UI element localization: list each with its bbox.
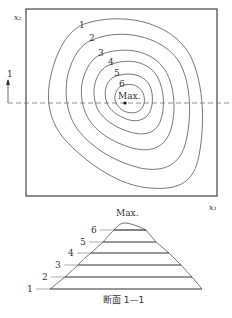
section-level-label-5: 5	[80, 237, 86, 247]
contour-label-6: 6	[119, 79, 125, 89]
max-point	[123, 101, 126, 104]
contour-label-1: 1	[79, 20, 85, 30]
contour-label-3: 3	[98, 48, 104, 58]
section-level-label-1: 1	[27, 284, 33, 294]
contour-label-2: 2	[89, 33, 95, 43]
contour-diagram: x₂ x₁ 1 1 2 3 4 5 6 Max. Max. 1 2 3 4 5 …	[0, 0, 232, 318]
contour-2	[66, 34, 189, 169]
section-max-label: Max.	[116, 208, 139, 218]
section-marker-label: 1	[7, 69, 13, 79]
section-title: 断面 1—1	[103, 294, 144, 305]
section-level-label-2: 2	[42, 272, 48, 282]
section-level-label-3: 3	[55, 260, 61, 270]
x1-axis-label: x₁	[209, 203, 217, 212]
contour-label-5: 5	[114, 68, 120, 78]
plan-frame	[26, 9, 217, 196]
section-arrow-icon	[6, 79, 10, 85]
contour-label-4: 4	[108, 57, 114, 67]
max-label: Max.	[118, 91, 141, 101]
section-level-label-6: 6	[91, 225, 97, 235]
x2-axis-label: x₂	[14, 13, 22, 22]
section-level-label-4: 4	[68, 248, 74, 258]
